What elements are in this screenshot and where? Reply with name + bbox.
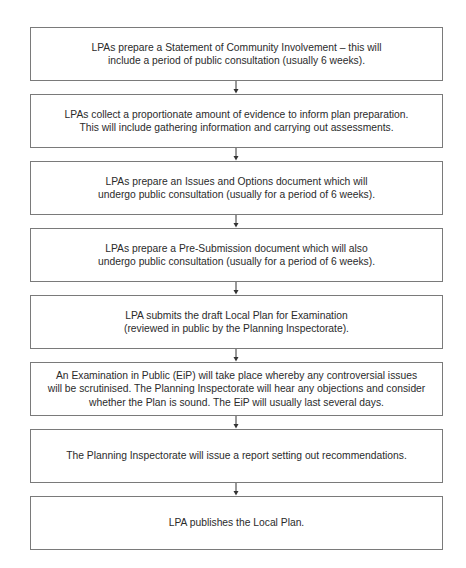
step-6-text: An Examination in Public (EiP) will take… — [48, 369, 426, 409]
step-4-box: LPAs prepare a Pre-Submission document w… — [30, 228, 443, 282]
arrow-6-to-7 — [30, 416, 443, 429]
step-4-text: LPAs prepare a Pre-Submission document w… — [98, 242, 375, 268]
down-arrow-icon — [230, 483, 242, 496]
step-2-text: LPAs collect a proportionate amount of e… — [65, 108, 409, 134]
step-8-text: LPA publishes the Local Plan. — [169, 516, 304, 529]
step-7-box: The Planning Inspectorate will issue a r… — [30, 429, 443, 483]
step-1-text: LPAs prepare a Statement of Community In… — [92, 41, 382, 67]
step-3-box: LPAs prepare an Issues and Options docum… — [30, 161, 443, 215]
step-7-text: The Planning Inspectorate will issue a r… — [66, 449, 407, 462]
step-8-box: LPA publishes the Local Plan. — [30, 496, 443, 550]
step-3-text: LPAs prepare an Issues and Options docum… — [98, 175, 375, 201]
step-1-box: LPAs prepare a Statement of Community In… — [30, 27, 443, 81]
down-arrow-icon — [230, 215, 242, 228]
arrow-5-to-6 — [30, 349, 443, 362]
down-arrow-icon — [230, 282, 242, 295]
step-5-text: LPA submits the draft Local Plan for Exa… — [124, 309, 349, 335]
down-arrow-icon — [230, 349, 242, 362]
down-arrow-icon — [230, 148, 242, 161]
down-arrow-icon — [230, 416, 242, 429]
arrow-3-to-4 — [30, 215, 443, 228]
down-arrow-icon — [230, 81, 242, 94]
step-5-box: LPA submits the draft Local Plan for Exa… — [30, 295, 443, 349]
arrow-2-to-3 — [30, 148, 443, 161]
flowchart: LPAs prepare a Statement of Community In… — [30, 27, 443, 550]
arrow-1-to-2 — [30, 81, 443, 94]
step-6-box: An Examination in Public (EiP) will take… — [30, 362, 443, 416]
arrow-4-to-5 — [30, 282, 443, 295]
arrow-7-to-8 — [30, 483, 443, 496]
step-2-box: LPAs collect a proportionate amount of e… — [30, 94, 443, 148]
